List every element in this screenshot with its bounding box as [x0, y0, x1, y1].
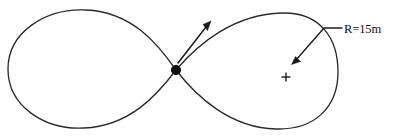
center-cross-mark [282, 73, 291, 82]
crossing-node-dot [171, 65, 180, 74]
left-lobe-curve [8, 10, 176, 128]
radius-label: R=15m [344, 22, 381, 36]
right-lobe-curve [176, 13, 338, 129]
figure-eight-diagram: R=15m [0, 0, 394, 139]
radius-leader-line [296, 28, 342, 60]
radius-leader-arrow-head [292, 57, 301, 65]
diagram-canvas: R=15m [0, 0, 394, 139]
